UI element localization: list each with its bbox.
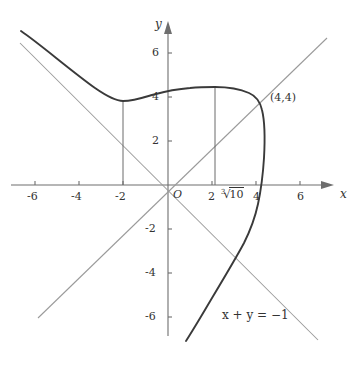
y-axis-label: y bbox=[155, 18, 162, 30]
radical-radicand: 10 bbox=[229, 187, 244, 201]
y-tick-label-6: 6 bbox=[152, 47, 159, 58]
x-tick-label-4: 4 bbox=[253, 191, 260, 202]
cube-root-ten-label: 3√10 bbox=[221, 189, 244, 200]
identity-line bbox=[38, 38, 327, 318]
x-tick-label-minus-6: -6 bbox=[27, 191, 38, 202]
y-tick-label-2: 2 bbox=[152, 135, 159, 146]
y-tick-label-4: 4 bbox=[152, 91, 159, 102]
graph-figure: -6 -4 -2 2 4 6 3√10 6 4 2 -2 -4 -6 x y O… bbox=[0, 0, 360, 365]
x-tick-label-minus-4: -4 bbox=[71, 191, 82, 202]
droplines bbox=[123, 87, 215, 185]
y-tick-label-minus-2: -2 bbox=[145, 223, 156, 234]
asymptote-line bbox=[20, 43, 318, 340]
cubic-curve bbox=[21, 31, 265, 341]
x-tick-label-2: 2 bbox=[208, 191, 215, 202]
y-axis bbox=[164, 21, 172, 336]
asymptote-equation-label: x + y = −1 bbox=[222, 309, 289, 321]
y-tick-label-minus-6: -6 bbox=[145, 311, 156, 322]
y-tick-label-minus-4: -4 bbox=[145, 267, 156, 278]
x-axis-label: x bbox=[340, 188, 347, 200]
origin-label: O bbox=[173, 189, 182, 200]
x-tick-label-minus-2: -2 bbox=[115, 191, 126, 202]
x-tick-label-6: 6 bbox=[297, 191, 304, 202]
plot-canvas bbox=[0, 0, 360, 365]
point-label-4-4: (4,4) bbox=[270, 92, 296, 103]
